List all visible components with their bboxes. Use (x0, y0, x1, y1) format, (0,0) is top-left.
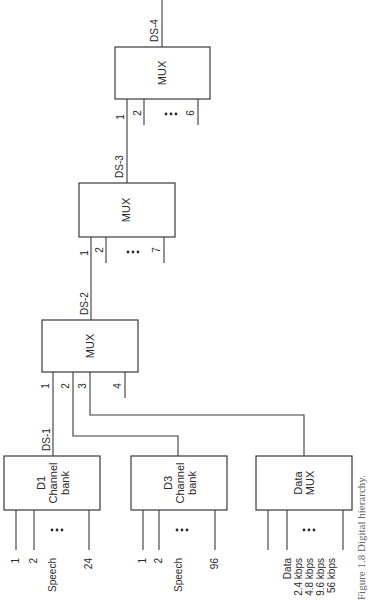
d3-input-2-label: 2 (153, 558, 164, 564)
mux-ds4-input-1-label: 1 (115, 114, 126, 120)
d3-group-label: Speech (173, 558, 184, 592)
d3-input-96-label: 96 (209, 558, 220, 570)
mux-ds4-input-6-label: 6 (185, 110, 196, 116)
data-mux-rate-label-2: 4.8 kbps (304, 558, 315, 596)
ds2-output-label: DS-2 (79, 292, 90, 315)
data-mux-rate-label-3: 9.6 kbps (315, 558, 326, 596)
mux-ds4: MUX DS-4 1 2 6 (115, 0, 210, 183)
d3-input-1-label: 1 (137, 558, 148, 564)
mux-ds4-input-2-label: 2 (132, 110, 143, 116)
d1-subtitle-1: Channel (47, 463, 59, 504)
d3-subtitle-1: Channel (174, 463, 186, 504)
d3-subtitle-2: bank (186, 471, 198, 495)
mux-ds3-input-2-label: 2 (94, 247, 105, 253)
mux-ds4-ellipsis (165, 113, 178, 116)
mux-ds3-input-1-label: 1 (79, 250, 90, 256)
mux-ds3-input-7-label: 7 (151, 247, 162, 253)
d3-channel-bank: D3 Channel bank 1 2 96 Speech (131, 456, 227, 592)
mux-ds2-input-2-label: 2 (60, 383, 71, 389)
mux-ds2: MUX DS-2 1 2 3 4 (40, 292, 304, 456)
data-mux-subtitle: MUX (304, 470, 316, 495)
d1-subtitle-2: bank (59, 471, 71, 495)
ds3-output-label: DS-3 (114, 155, 125, 178)
d1-input-1-label: 1 (10, 558, 21, 564)
d1-input-2-label: 2 (28, 558, 39, 564)
figure-caption: Figure 1.8 Digital hierarchy. (355, 475, 367, 600)
mux-ds4-label: MUX (156, 60, 168, 85)
d3-title: D3 (162, 476, 174, 490)
mux-ds2-input-3-label: 3 (77, 383, 88, 389)
mux-ds2-input-4-label: 4 (112, 383, 123, 389)
data-mux-rate-label-0: Data (282, 558, 293, 580)
data-mux: Data MUX Data 2.4 kbps 4.8 kbps 9.6 kbps… (256, 456, 352, 596)
data-mux-ellipsis (303, 529, 316, 532)
mux-ds2-input-1-label: 1 (40, 383, 51, 389)
data-mux-rate-label-4: 56 kbps (326, 558, 337, 593)
digital-hierarchy-diagram: MUX DS-4 1 2 6 MUX DS-3 1 2 7 MUX DS-2 (0, 0, 370, 602)
d1-ellipsis (51, 529, 64, 532)
mux-ds3-ellipsis (127, 251, 140, 254)
d1-channel-bank: DS-1 D1 Channel bank 1 2 24 Speech (4, 428, 100, 592)
ds1-output-label: DS-1 (41, 428, 52, 451)
ds4-output-label: DS-4 (149, 19, 160, 42)
data-mux-title: Data (292, 471, 304, 495)
mux-ds2-label: MUX (84, 333, 96, 358)
d1-title: D1 (35, 476, 47, 490)
d3-ellipsis (176, 529, 189, 532)
data-mux-rate-label-1: 2.4 kbps (293, 558, 304, 596)
d1-input-24-label: 24 (83, 558, 94, 570)
d1-group-label: Speech (47, 558, 58, 592)
mux-ds3-label: MUX (120, 197, 132, 222)
